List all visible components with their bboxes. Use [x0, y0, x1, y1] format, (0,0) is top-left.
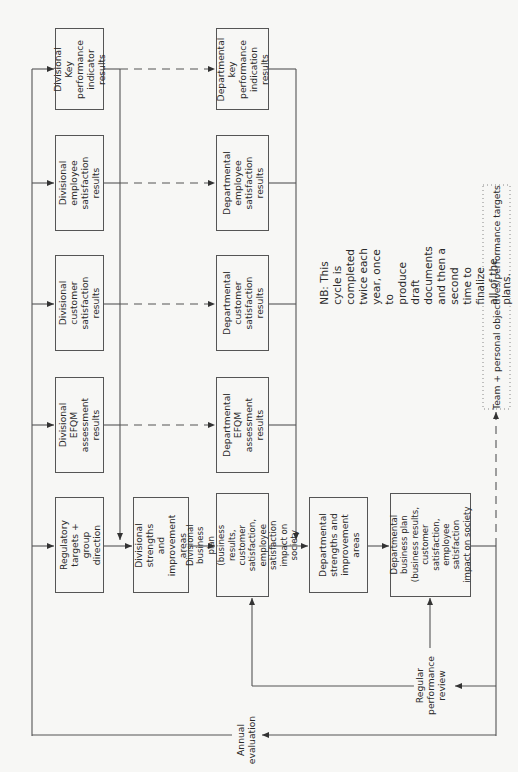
box-label: Departmental key performance indication …	[215, 37, 270, 101]
box-label: Divisional customer satisfaction results	[58, 277, 102, 330]
targets-label: Team + personal objectives/performance t…	[491, 185, 502, 410]
box-label: Divisional employee satisfaction results	[58, 157, 102, 210]
team-personal-objectives-box: Team + personal objectives/performance t…	[483, 185, 510, 409]
departmental-efqm-assessment-box: Departmental EFQM assessment results	[216, 377, 269, 473]
annual-evaluation-label: Annual evaluation	[224, 712, 268, 768]
departmental-business-plan-box: Departmental business plan (business res…	[390, 493, 471, 597]
box-label: Regulatory targets + group direction	[58, 520, 102, 570]
divisional-kpi-results-box: Divisional Key performance indicator res…	[55, 28, 104, 110]
box-label: Divisional EFQM assessment results	[58, 398, 102, 452]
box-label: Divisional Key performance indicator res…	[52, 40, 107, 99]
departmental-employee-satisfaction-box: Departmental employee satisfaction resul…	[216, 135, 269, 231]
divisional-business-plan-box: Divisional business plan (business resul…	[216, 493, 269, 597]
divisional-employee-satisfaction-box: Divisional employee satisfaction results	[55, 135, 104, 231]
box-label: Divisional strengths and improvement are…	[134, 514, 189, 576]
cycle-note: NB: This cycle is completed twice each y…	[390, 85, 440, 465]
divisional-efqm-assessment-box: Divisional EFQM assessment results	[55, 377, 104, 473]
box-label: Departmental employee satisfaction resul…	[221, 151, 265, 215]
regulatory-targets-box: Regulatory targets + group direction	[55, 497, 104, 593]
label-text: Regular performance review	[414, 656, 447, 715]
box-label: Divisional business plan (business resul…	[185, 519, 299, 571]
divisional-strengths-box: Divisional strengths and improvement are…	[133, 497, 189, 593]
box-label: Departmental business plan (business res…	[389, 506, 472, 585]
departmental-kpi-results-box: Departmental key performance indication …	[216, 28, 269, 110]
box-label: Departmental strengths and improvement a…	[317, 513, 361, 577]
divisional-customer-satisfaction-box: Divisional customer satisfaction results	[55, 255, 104, 351]
label-text: Annual evaluation	[235, 716, 257, 764]
box-label: Departmental EFQM assessment results	[221, 393, 265, 457]
regular-performance-review-label: Regular performance review	[400, 650, 460, 720]
departmental-strengths-box: Departmental strengths and improvement a…	[309, 497, 368, 593]
